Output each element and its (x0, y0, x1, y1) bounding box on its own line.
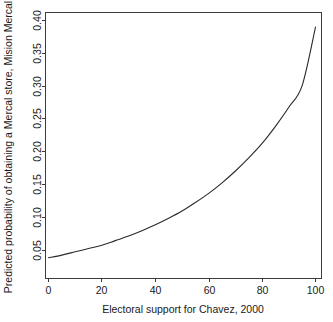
y-tick-label-0.30: 0.30 (31, 76, 43, 97)
y-tick-label-0.15: 0.15 (31, 174, 43, 195)
x-tick-label-100: 100 (307, 284, 325, 296)
x-axis-title: Electoral support for Chavez, 2000 (102, 303, 264, 315)
x-axis-ticks (49, 278, 316, 282)
y-tick-label-0.35: 0.35 (31, 43, 43, 64)
x-tick-label-40: 40 (150, 284, 162, 296)
y-tick-label-0.40: 0.40 (31, 10, 43, 31)
y-tick-label-0.25: 0.25 (31, 108, 43, 129)
plot-panel (46, 13, 322, 279)
x-tick-label-20: 20 (96, 284, 108, 296)
x-tick-label-0: 0 (46, 284, 52, 296)
y-tick-label-0.05: 0.05 (31, 240, 43, 261)
line-chart: 0.05 0.10 0.15 0.20 0.25 0.30 0.35 0.40 … (0, 0, 333, 322)
y-tick-label-0.10: 0.10 (31, 207, 43, 228)
x-axis-tick-labels: 0 20 40 60 80 100 (46, 284, 325, 296)
y-axis-title: Predicted probability of obtaining a Mer… (2, 1, 14, 293)
x-tick-label-60: 60 (204, 284, 216, 296)
figure-container: 0.05 0.10 0.15 0.20 0.25 0.30 0.35 0.40 … (0, 0, 333, 322)
y-axis-tick-labels: 0.05 0.10 0.15 0.20 0.25 0.30 0.35 0.40 (31, 10, 43, 261)
x-tick-label-80: 80 (257, 284, 269, 296)
y-tick-label-0.20: 0.20 (31, 141, 43, 162)
